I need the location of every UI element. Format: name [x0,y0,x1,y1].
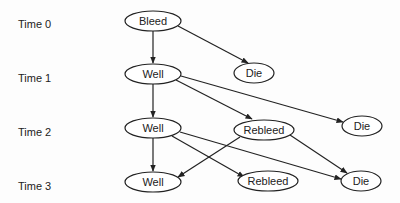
node-die-t1: Die [234,63,274,83]
edge-rebleed2-well3 [178,137,240,177]
svg-text:Well: Well [142,176,163,188]
node-die-t2: Die [342,116,382,136]
node-die-t3: Die [341,171,381,191]
svg-text:Die: Die [246,67,263,79]
svg-text:Rebleed: Rebleed [244,124,285,136]
edges [153,26,347,179]
edge-well2-rebleed3 [172,136,244,177]
edge-bleed-die1 [178,26,248,63]
state-transition-diagram: Bleed Well Die Well Rebleed Die Well Reb… [0,0,400,203]
svg-text:Die: Die [354,120,371,132]
node-well-t2: Well [125,118,181,138]
svg-text:Bleed: Bleed [139,15,167,27]
node-rebleed-t3: Rebleed [238,171,298,191]
node-rebleed-t2: Rebleed [234,120,294,140]
edge-rebleed2-die3 [290,135,347,173]
node-bleed-t0: Bleed [125,11,181,31]
svg-text:Well: Well [142,122,163,134]
svg-text:Well: Well [142,68,163,80]
svg-text:Die: Die [353,175,370,187]
node-well-t1: Well [125,64,181,84]
edge-well1-die2 [181,76,343,122]
svg-text:Rebleed: Rebleed [248,175,289,187]
node-well-t3: Well [125,172,181,192]
